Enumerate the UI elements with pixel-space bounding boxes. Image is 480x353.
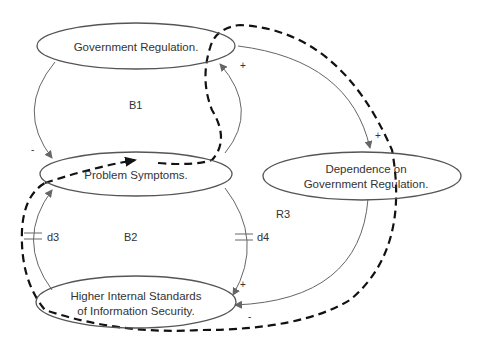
polarity-prob-to-gov: + — [240, 60, 246, 71]
node-government-regulation: Government Regulation. — [37, 23, 235, 69]
loop-label-b2: B2 — [124, 231, 137, 243]
delay-mark-d3 — [24, 233, 42, 239]
link-dep-to-std — [235, 199, 368, 305]
delay-label-d4: d4 — [257, 231, 269, 243]
polarity-gov-to-prob: - — [31, 144, 34, 155]
node-higher-internal-standards: Higher Internal Standards of Information… — [36, 276, 236, 328]
loop-label-b1: B1 — [129, 99, 142, 111]
node-problem-symptoms: Problem Symptoms. — [40, 152, 232, 196]
node-label: Problem Symptoms. — [84, 169, 188, 181]
loop-label-r3: R3 — [276, 208, 290, 220]
polarity-dep-to-std: - — [248, 311, 251, 322]
causal-loop-diagram: Government Regulation. Problem Symptoms.… — [0, 0, 480, 353]
node-label: Dependence on — [325, 163, 406, 175]
delay-mark-d4 — [235, 234, 253, 240]
node-label: Higher Internal Standards — [70, 290, 201, 302]
link-gov-to-dep — [238, 46, 370, 148]
node-label: Government Regulation. — [304, 178, 429, 190]
node-dependence-on-government-regulation: Dependence on Government Regulation. — [263, 152, 461, 200]
link-prob-to-gov — [220, 64, 241, 153]
delay-label-d3: d3 — [47, 231, 59, 243]
node-label: Government Regulation. — [74, 41, 199, 53]
link-gov-to-prob — [34, 62, 55, 158]
polarity-prob-to-std: + — [240, 279, 246, 290]
node-label: of Information Security. — [77, 305, 194, 317]
polarity-gov-to-dep: + — [375, 130, 381, 141]
